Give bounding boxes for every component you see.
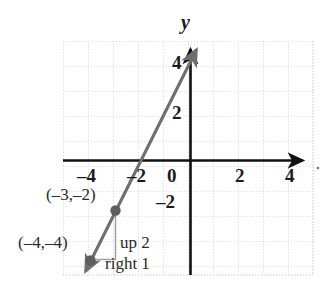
y-axis-label: y: [181, 12, 190, 32]
point-label-b: (–4,–4): [18, 234, 68, 251]
scan-speck: [317, 167, 319, 169]
x-tick-label-neg4: –4: [77, 166, 96, 185]
x-tick-label-4: 4: [285, 166, 295, 185]
run-annotation: right 1: [105, 255, 150, 272]
x-tick-label-neg2: –2: [127, 166, 146, 185]
x-tick-label-2: 2: [235, 166, 245, 185]
x-tick-label-0: 0: [167, 166, 177, 185]
graph-figure: y –4 –2 0 2 4 4 2 –2 (–3,–2) (–4,–4) up …: [0, 0, 323, 293]
point-label-a: (–3,–2): [46, 186, 96, 203]
y-tick-label-2: 2: [172, 103, 182, 122]
y-tick-label-4: 4: [172, 53, 182, 72]
point-marker-b: [85, 255, 95, 265]
point-marker-a: [110, 205, 120, 215]
y-tick-label-neg2: –2: [156, 192, 175, 211]
rise-annotation: up 2: [120, 234, 150, 251]
